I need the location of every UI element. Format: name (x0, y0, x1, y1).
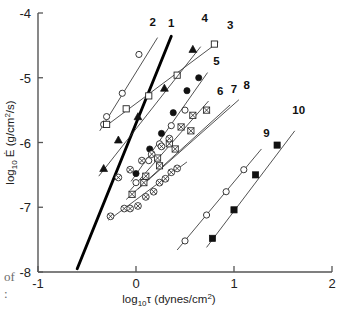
data-point-circle-open (182, 238, 188, 244)
data-point-circle-filled (158, 130, 164, 136)
data-point-square-filled (209, 235, 215, 241)
y-title-unit-pre: (g/cm (4, 118, 16, 150)
series-8 (138, 100, 239, 189)
data-point-circle-open (133, 180, 139, 186)
series-label-9: 9 (263, 127, 269, 139)
series-trend-line (177, 149, 261, 250)
x-title-log: log (122, 293, 137, 305)
page-artifacts-layer: of: (4, 269, 16, 301)
y-tick-label: -5 (19, 71, 31, 86)
series-label-10: 10 (292, 104, 305, 116)
series-label-7: 7 (231, 83, 237, 95)
data-point-circle-open (146, 158, 152, 164)
y-tick-label: -8 (19, 265, 31, 280)
series-label-8: 8 (244, 79, 251, 91)
data-point-circle-open (136, 51, 142, 57)
data-point-circle-open (203, 212, 209, 218)
series-label-3: 3 (227, 19, 233, 31)
data-point-square-filled (252, 172, 258, 178)
series-trend-line (105, 42, 219, 127)
data-point-circle-open (182, 107, 188, 113)
data-point-square-filled (231, 207, 237, 213)
x-tick-label: -1 (32, 276, 44, 291)
data-point-circle-open (168, 123, 174, 129)
series-2 (100, 38, 158, 131)
data-point-square-open (174, 72, 180, 78)
series-label-4: 4 (201, 12, 208, 24)
chart-canvas: -4-5-6-7-8-1012 12345678910 log10τ (dyne… (0, 0, 344, 312)
data-point-circle-filled (133, 170, 139, 176)
series-layer (77, 36, 295, 268)
series-label-1: 1 (168, 17, 175, 29)
data-point-circle-filled (196, 75, 202, 81)
series-label-6: 6 (217, 85, 223, 97)
y-axis-title: log10 Ė (g/cm2/s) (3, 100, 19, 184)
series-trend-line (138, 100, 239, 189)
data-point-triangle-filled (114, 136, 122, 143)
data-point-circle-filled (184, 88, 190, 94)
data-point-square-filled (274, 142, 280, 148)
data-point-circle-open (241, 167, 247, 173)
data-point-triangle-filled (161, 84, 169, 91)
y-title-symbol: Ė (4, 149, 16, 160)
data-point-triangle-filled (100, 165, 108, 172)
series-9 (177, 149, 261, 250)
series-label-5: 5 (213, 55, 220, 67)
series-trend-line (77, 36, 171, 268)
series-label-2: 2 (149, 16, 155, 28)
x-tick-label: 1 (230, 276, 237, 291)
series-3 (104, 41, 219, 127)
y-tick-label: -6 (19, 136, 31, 151)
data-point-circle-open (119, 90, 125, 96)
series-10 (207, 131, 295, 248)
x-title-unit-post: ) (212, 293, 216, 305)
data-point-square-open (104, 121, 110, 127)
series-trend-line (207, 131, 295, 248)
data-point-square-open (211, 41, 217, 47)
y-title-log: log (4, 169, 16, 184)
x-title-unit-pre: (dynes/cm (151, 293, 207, 305)
y-tick-label: -7 (19, 200, 31, 215)
y-tick-label: -4 (19, 6, 31, 21)
data-point-triangle-filled (189, 45, 197, 52)
data-point-circle-open (223, 189, 229, 195)
page-artifact-colon: : (4, 286, 8, 301)
data-point-square-open (123, 106, 129, 112)
data-point-circle-open (104, 114, 110, 120)
x-tick-label: 2 (328, 276, 335, 291)
series-1 (77, 36, 171, 268)
x-tick-label: 0 (132, 276, 139, 291)
x-axis-title: log10τ (dynes/cm2) (122, 292, 216, 308)
data-point-square-open (146, 93, 152, 99)
data-point-circle-filled (170, 110, 176, 116)
y-title-unit-post: /s) (4, 100, 16, 113)
page-artifact-word: of (4, 269, 16, 284)
